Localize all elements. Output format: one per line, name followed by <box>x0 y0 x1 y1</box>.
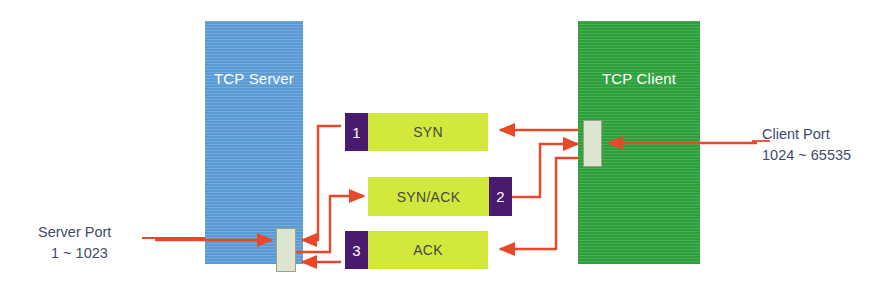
server-port-annotation-title: Server Port <box>38 222 111 243</box>
packet-syn-label: SYN <box>368 113 488 151</box>
packet-synack-step: 2 <box>489 177 512 216</box>
tcp-handshake-diagram: TCP Server TCP Client <box>0 0 891 293</box>
packet-syn: 1 SYN <box>345 113 488 151</box>
tcp-server-label: TCP Server <box>205 70 303 87</box>
syn-arrow-to-server-port <box>302 126 341 240</box>
tcp-client-label: TCP Client <box>578 70 700 87</box>
server-port-annotation: Server Port 1 ~ 1023 <box>38 222 111 264</box>
packet-ack-label: ACK <box>368 231 488 269</box>
client-port-annotation: Client Port 1024 ~ 65535 <box>762 124 851 166</box>
packet-ack: 3 ACK <box>345 231 488 269</box>
packet-ack-step: 3 <box>345 231 368 269</box>
packet-syn-step: 1 <box>345 113 368 151</box>
packet-synack: SYN/ACK 2 <box>368 177 512 216</box>
server-port-annotation-range: 1 ~ 1023 <box>38 243 111 264</box>
client-port-annotation-range: 1024 ~ 65535 <box>762 145 851 166</box>
packet-synack-label: SYN/ACK <box>368 177 489 216</box>
synack-arrow-to-client-port <box>512 144 578 197</box>
server-port-box <box>276 228 296 272</box>
client-port-annotation-title: Client Port <box>762 124 851 145</box>
client-port-box <box>583 120 602 167</box>
